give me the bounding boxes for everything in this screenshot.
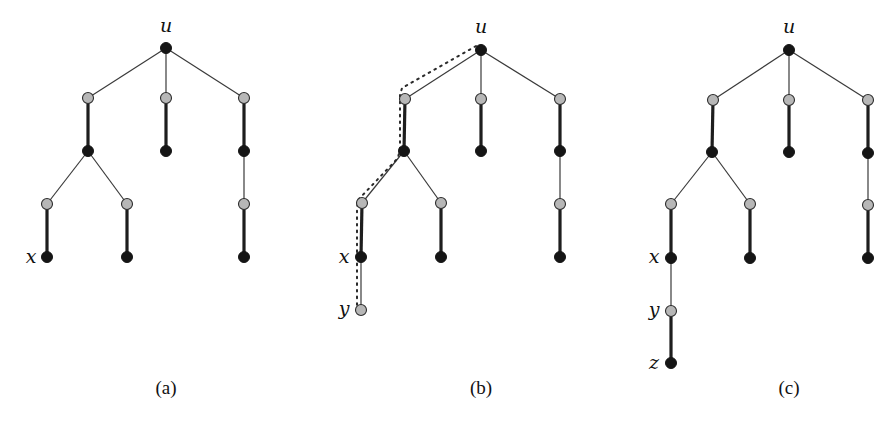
node-label-y: y (648, 298, 660, 320)
edge-thin (713, 50, 789, 100)
node-gray (784, 95, 795, 106)
node-black (555, 146, 566, 157)
panel-c-tree: uxyz(c) (648, 15, 874, 399)
node-label-x: x (339, 245, 350, 267)
node-gray-y (666, 306, 677, 317)
node-black (476, 146, 487, 157)
node-black-u (161, 43, 172, 54)
node-black (239, 252, 250, 263)
node-black (239, 146, 250, 157)
node-gray (708, 95, 719, 106)
panel-caption-b: (b) (470, 377, 492, 399)
node-black-x (42, 252, 53, 263)
node-gray (436, 198, 447, 209)
node-black (863, 148, 874, 159)
node-label-u: u (783, 15, 795, 37)
node-label-u: u (475, 15, 487, 37)
node-black-x (666, 253, 677, 264)
node-gray (83, 93, 94, 104)
node-gray (476, 94, 487, 105)
node-gray-y (356, 305, 367, 316)
node-black-x (356, 252, 367, 263)
node-label-y: y (338, 297, 350, 319)
edge-thick (404, 99, 405, 151)
panel-b-tree: uxy(b) (338, 15, 566, 399)
node-gray (863, 95, 874, 106)
edge-thin (712, 152, 750, 204)
edge-thin (47, 151, 88, 204)
edge-thick (712, 100, 713, 152)
node-label-z: z (648, 351, 660, 373)
node-black-u (476, 45, 487, 56)
edge-thin (404, 151, 441, 203)
node-gray (863, 200, 874, 211)
node-gray (357, 198, 368, 209)
node-gray (161, 93, 172, 104)
edge-thin (789, 50, 868, 100)
node-black (161, 146, 172, 157)
node-gray (400, 94, 411, 105)
edge-thin (481, 50, 560, 99)
edge-thin (166, 48, 244, 98)
node-label-x: x (26, 245, 37, 267)
edge-thin (405, 50, 481, 99)
node-gray (122, 199, 133, 210)
edge-thin (88, 48, 166, 98)
panel-caption-a: (a) (155, 377, 176, 399)
edge-thick (361, 203, 362, 257)
edge-thin (671, 152, 712, 204)
edge-thin (88, 151, 127, 204)
node-gray (239, 199, 250, 210)
node-gray (555, 94, 566, 105)
node-black (436, 252, 447, 263)
node-black (863, 253, 874, 264)
node-black (555, 252, 566, 263)
panel-caption-c: (c) (778, 377, 799, 399)
node-gray (745, 199, 756, 210)
node-black (122, 252, 133, 263)
node-black (707, 147, 718, 158)
node-black (784, 147, 795, 158)
node-gray (555, 199, 566, 210)
dotted-path (357, 46, 476, 306)
node-black-u (784, 45, 795, 56)
node-black-z (666, 358, 677, 369)
panel-a-tree: ux(a) (26, 14, 250, 399)
node-black (745, 253, 756, 264)
edge-thin (362, 151, 404, 203)
node-black (83, 146, 94, 157)
node-black (399, 146, 410, 157)
node-label-u: u (160, 14, 172, 36)
node-gray (666, 199, 677, 210)
node-gray (239, 93, 250, 104)
tree-figure: ux(a) uxy(b) uxyz(c) (0, 0, 896, 422)
node-label-x: x (649, 245, 660, 267)
node-gray (42, 199, 53, 210)
